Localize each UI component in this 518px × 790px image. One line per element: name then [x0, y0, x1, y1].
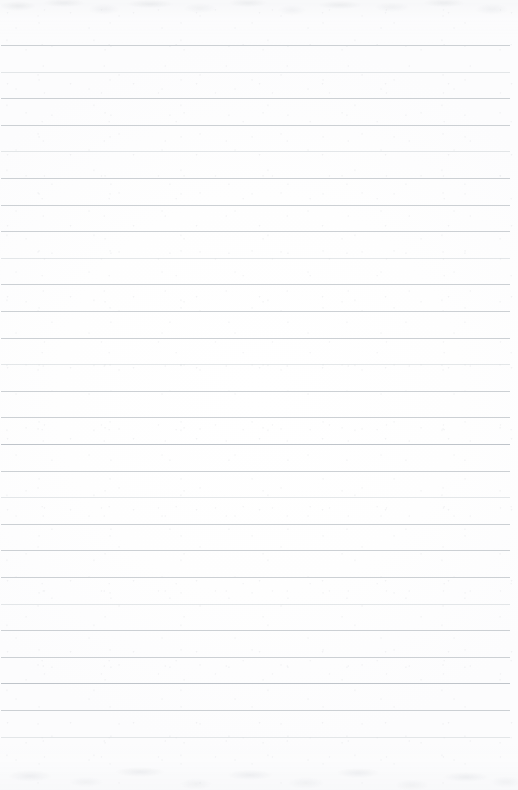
- ruled-line: [1, 524, 510, 525]
- ruled-line: [1, 72, 510, 73]
- ruled-line: [1, 284, 510, 285]
- ruled-line: [1, 125, 510, 126]
- ruled-line: [1, 391, 510, 392]
- ruled-line: [1, 471, 510, 472]
- ruled-line: [1, 98, 510, 99]
- ruled-line: [1, 338, 510, 339]
- ruled-line: [1, 604, 510, 605]
- ruled-line: [1, 577, 510, 578]
- ruled-line: [1, 657, 510, 658]
- ruled-line: [1, 364, 510, 365]
- ruled-line: [1, 231, 510, 232]
- ruled-line: [1, 258, 510, 259]
- ruled-line: [1, 417, 510, 418]
- ruled-line: [1, 737, 510, 738]
- ruled-line: [1, 311, 510, 312]
- ruled-line: [1, 497, 510, 498]
- ruled-line: [1, 683, 510, 684]
- ruled-line: [1, 205, 510, 206]
- lined-paper-sheet: Blank ruled paper sheet: [0, 0, 518, 790]
- ruled-line: [1, 151, 510, 152]
- ruled-line: [1, 550, 510, 551]
- ruled-line: [1, 710, 510, 711]
- ruled-line: [1, 178, 510, 179]
- ruled-line: [1, 444, 510, 445]
- ruled-line: [1, 630, 510, 631]
- ruled-lines-group: [0, 0, 518, 790]
- ruled-line: [1, 45, 510, 46]
